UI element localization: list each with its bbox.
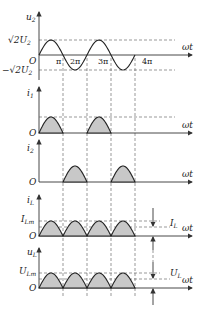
origin-uL: O <box>29 283 37 293</box>
half-wave-i2-1 <box>63 166 87 182</box>
rectifier-waveform-diagram: u2 ωt O √2U2 −√2U2 π 2π 3π 4π i1 ωt O i2… <box>0 0 200 313</box>
origin-iL: O <box>29 231 37 241</box>
ylabel-i1: i1 <box>27 88 34 99</box>
xlabel-i1: ωt <box>182 120 193 130</box>
half-wave-i1-1 <box>39 117 63 133</box>
ylabel-u2: u2 <box>26 12 36 23</box>
tick-4pi: 4π <box>142 57 152 66</box>
trough-label-u2: −√2U2 <box>2 65 33 76</box>
peak-label-uL: ULm <box>19 266 37 277</box>
tick-2pi: 2π <box>70 57 80 66</box>
xlabel-u2: ωt <box>182 42 193 52</box>
xlabel-i2: ωt <box>182 169 193 179</box>
ylabel-iL: iL <box>27 195 34 206</box>
panel-iL: iL ωt O ILm IL <box>20 195 193 262</box>
tick-pi: π <box>56 57 61 66</box>
xlabel-uL: ωt <box>182 275 193 285</box>
tick-3pi: 3π <box>98 57 108 66</box>
origin-i2: O <box>29 177 37 187</box>
ylabel-i2: i2 <box>27 143 34 154</box>
origin-u2: O <box>29 56 37 66</box>
avg-label-uL: UL <box>170 268 182 279</box>
avg-label-iL: IL <box>169 218 178 229</box>
panel-uL: uL ωt O ULm UL <box>19 247 193 305</box>
panel-i2: i2 ωt O <box>27 140 193 187</box>
panel-u2: u2 ωt O √2U2 −√2U2 π 2π 3π 4π <box>2 12 193 80</box>
origin-i1: O <box>29 128 37 138</box>
peak-label-u2: √2U2 <box>8 35 31 46</box>
xlabel-iL: ωt <box>182 223 193 233</box>
ylabel-uL: uL <box>27 247 37 258</box>
half-wave-i2-2 <box>111 166 135 182</box>
peak-label-iL: ILm <box>20 214 35 225</box>
panel-i1: i1 ωt O <box>27 87 193 138</box>
half-wave-i1-2 <box>87 117 111 133</box>
